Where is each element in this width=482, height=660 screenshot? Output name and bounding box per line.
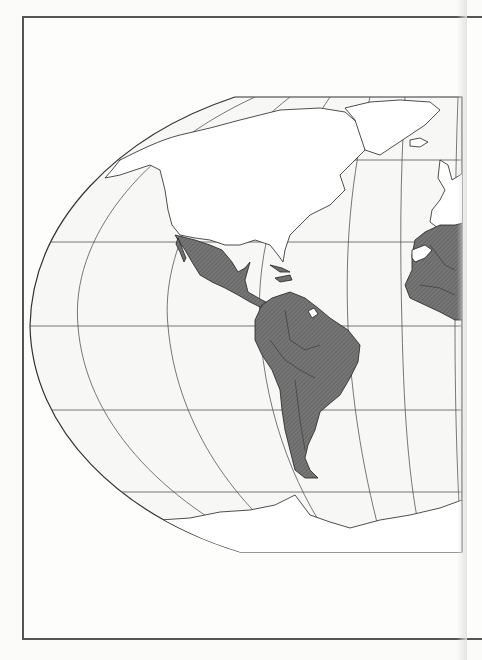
page-edge-shadow	[457, 0, 467, 660]
